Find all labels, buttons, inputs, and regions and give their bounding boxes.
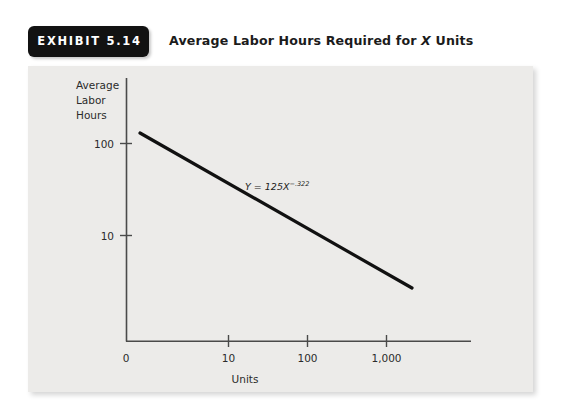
exhibit-badge: EXHIBIT 5.14 <box>28 26 149 57</box>
exhibit-badge-label: EXHIBIT 5.14 <box>35 36 141 48</box>
curve-equation-base: Y = 125X <box>245 181 290 192</box>
chart-plot-area: Average Labor Hours 100 10 0 10 100 1,00… <box>28 66 533 392</box>
y-tick-label-100: 100 <box>94 138 114 150</box>
exhibit-title: Average Labor Hours Required for X Units <box>169 33 473 48</box>
y-axis-title-line-1: Average <box>76 79 119 91</box>
x-axis-title: Units <box>232 373 259 385</box>
y-tick-label-10: 10 <box>101 230 114 242</box>
x-tick-label-0: 0 <box>123 352 130 364</box>
learning-curve-chart: Average Labor Hours 100 10 0 10 100 1,00… <box>28 66 533 392</box>
exhibit-title-suffix: Units <box>431 33 473 48</box>
exhibit-title-prefix: Average Labor Hours Required for <box>169 33 421 48</box>
learning-curve-line <box>140 133 412 288</box>
y-axis-title-line-2: Labor <box>76 94 106 106</box>
x-tick-label-10: 10 <box>222 352 235 364</box>
figure-panel: Average Labor Hours 100 10 0 10 100 1,00… <box>28 66 533 392</box>
x-tick-label-1000: 1,000 <box>371 352 401 364</box>
x-tick-label-100: 100 <box>297 352 317 364</box>
y-axis-title-line-3: Hours <box>76 109 107 121</box>
curve-equation-annotation: Y = 125X−.322 <box>245 180 309 192</box>
curve-equation-exponent: −.322 <box>289 180 309 188</box>
exhibit-title-variable: X <box>421 33 431 48</box>
exhibit-header: EXHIBIT 5.14 Average Labor Hours Require… <box>0 0 563 66</box>
